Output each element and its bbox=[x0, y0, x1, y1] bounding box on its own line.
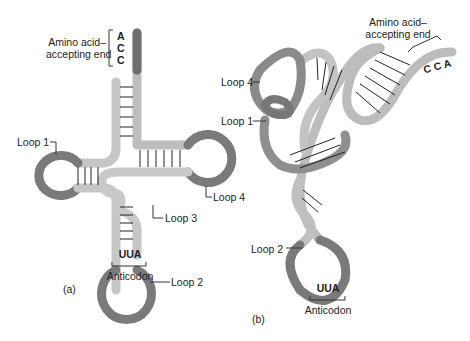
loop3-label-a: Loop 3 bbox=[165, 212, 197, 224]
base-a: A bbox=[117, 30, 125, 42]
anticodon-seq-b: UUA bbox=[312, 282, 344, 294]
loop4-label-b: Loop 4 bbox=[221, 76, 253, 88]
loop1-label-b: Loop 1 bbox=[221, 115, 253, 127]
loop2-label-b: Loop 2 bbox=[251, 243, 283, 255]
amino-label-line2: accepting end bbox=[46, 48, 106, 60]
base-c: C bbox=[117, 54, 125, 66]
amino-label-line1: Amino acid– bbox=[46, 36, 106, 48]
l-shape-structure bbox=[254, 48, 452, 301]
caption-b: (b) bbox=[252, 313, 265, 325]
anticodon-label-a: Anticodon bbox=[100, 270, 160, 282]
caption-a: (a) bbox=[63, 283, 76, 295]
amino-acid-end-label-a: Amino acid– accepting end bbox=[46, 36, 106, 60]
loop4-label-a: Loop 4 bbox=[213, 191, 245, 203]
loop1-label-a: Loop 1 bbox=[17, 136, 49, 148]
base-c: C bbox=[117, 42, 125, 54]
anticodon-seq-a: UUA bbox=[114, 248, 146, 260]
amino-label-line1: Amino acid– bbox=[358, 16, 438, 28]
anticodon-label-b: Anticodon bbox=[298, 304, 358, 316]
acceptor-bases-a: A C C bbox=[117, 30, 125, 66]
amino-acid-end-label-b: Amino acid– accepting end bbox=[358, 16, 438, 40]
amino-label-line2: accepting end bbox=[358, 28, 438, 40]
base-c: C bbox=[432, 59, 442, 73]
loop2-label-a: Loop 2 bbox=[171, 276, 203, 288]
